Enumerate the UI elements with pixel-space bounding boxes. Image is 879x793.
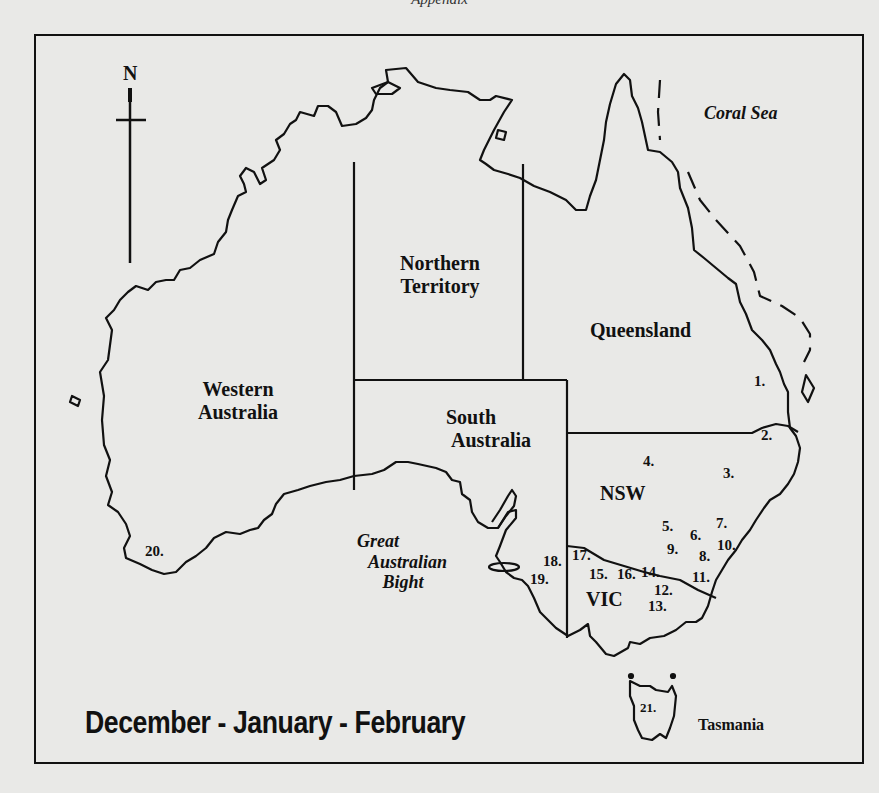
label-line: Australian bbox=[368, 552, 442, 573]
site-marker-7: 7. bbox=[716, 515, 727, 532]
site-marker-11: 11. bbox=[692, 569, 710, 586]
site-marker-16: 16. bbox=[617, 566, 636, 583]
site-marker-5: 5. bbox=[662, 518, 673, 535]
site-marker-17: 17. bbox=[572, 547, 591, 564]
site-marker-1: 1. bbox=[754, 373, 765, 390]
site-marker-8: 8. bbox=[699, 548, 710, 565]
region-label-south-australia: South Australia bbox=[412, 406, 552, 452]
site-marker-20: 20. bbox=[145, 543, 164, 560]
region-label-queensland: Queensland bbox=[590, 319, 691, 342]
site-marker-21: 21. bbox=[640, 700, 656, 716]
site-marker-15: 15. bbox=[589, 566, 608, 583]
site-marker-4: 4. bbox=[643, 453, 654, 470]
map-title-season: December - January - February bbox=[85, 705, 465, 741]
site-marker-18: 18. bbox=[543, 553, 562, 570]
water-label-great-australian-bight: Great Australian Bight bbox=[342, 531, 442, 593]
site-marker-13: 13. bbox=[648, 598, 667, 615]
site-marker-2: 2. bbox=[761, 427, 772, 444]
mainland-coastline bbox=[100, 68, 800, 656]
region-label-vic: VIC bbox=[586, 588, 623, 611]
compass-north-label: N bbox=[123, 62, 137, 85]
label-line: Northern bbox=[370, 252, 510, 275]
region-label-nsw: NSW bbox=[600, 482, 646, 505]
region-label-tasmania: Tasmania bbox=[698, 716, 764, 734]
site-marker-19: 19. bbox=[530, 571, 549, 588]
label-line: Territory bbox=[370, 275, 510, 298]
label-line: Australia bbox=[168, 401, 308, 424]
site-marker-14: 14. bbox=[641, 564, 660, 581]
label-line: Australia bbox=[430, 429, 552, 452]
label-line: South bbox=[412, 406, 530, 429]
site-marker-3: 3. bbox=[723, 465, 734, 482]
water-label-coral-sea: Coral Sea bbox=[704, 103, 778, 124]
label-line: Bight bbox=[364, 572, 442, 593]
north-arrow-icon bbox=[116, 88, 146, 263]
site-marker-12: 12. bbox=[654, 582, 673, 599]
site-marker-6: 6. bbox=[690, 527, 701, 544]
region-label-western-australia: Western Australia bbox=[168, 378, 308, 424]
label-line: Great bbox=[342, 531, 414, 552]
label-line: Western bbox=[168, 378, 308, 401]
site-marker-10: 10. bbox=[717, 537, 736, 554]
region-label-northern-territory: Northern Territory bbox=[370, 252, 510, 298]
site-marker-9: 9. bbox=[667, 541, 678, 558]
